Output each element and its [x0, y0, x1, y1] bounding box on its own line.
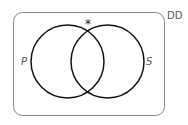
set-s-circle: [71, 25, 144, 98]
set-s-label: S: [146, 57, 152, 67]
universe-label: DD: [167, 11, 182, 21]
intersection-marker: *: [85, 19, 91, 29]
venn-diagram: [0, 0, 188, 125]
set-p-label: P: [21, 57, 27, 67]
set-p-circle: [31, 25, 104, 98]
